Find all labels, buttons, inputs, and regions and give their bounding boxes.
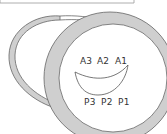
label-a3: A3 <box>80 56 92 66</box>
label-a2: A2 <box>97 56 109 66</box>
label-p2: P2 <box>101 97 113 107</box>
valve-illustration <box>0 0 167 134</box>
label-p1: P1 <box>118 97 130 107</box>
mitral-valve-diagram: A3 A2 A1 P3 P2 P1 <box>0 0 167 134</box>
label-p3: P3 <box>84 97 96 107</box>
label-a1: A1 <box>115 56 127 66</box>
frame-edge <box>0 0 134 3</box>
